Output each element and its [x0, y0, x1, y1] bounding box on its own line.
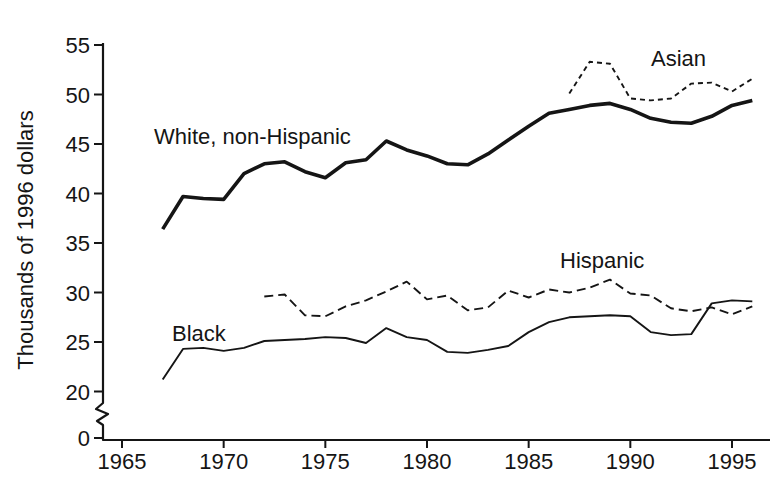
y-tick-label: 30	[66, 281, 90, 306]
series-line-black	[163, 300, 753, 379]
x-tick-label: 1995	[708, 449, 757, 474]
y-tick-label: 0	[78, 426, 90, 451]
x-tick-label: 1980	[403, 449, 452, 474]
x-tick-label: 1975	[301, 449, 350, 474]
series-line-white-non-hispanic	[163, 100, 753, 229]
series-label-asian: Asian	[651, 46, 706, 72]
income-line-chart-figure: 1965197019751980198519901995555045403530…	[0, 0, 783, 499]
series-label-black: Black	[172, 321, 226, 347]
series-label-hispanic: Hispanic	[560, 248, 644, 274]
y-tick-label: 50	[66, 83, 90, 108]
y-tick-label: 25	[66, 330, 90, 355]
y-tick-label: 40	[66, 182, 90, 207]
series-line-hispanic	[264, 280, 752, 317]
x-tick-label: 1965	[98, 449, 147, 474]
y-tick-label: 55	[66, 33, 90, 58]
y-axis-title: Thousands of 1996 dollars	[13, 110, 39, 369]
chart-plot-area: 1965197019751980198519901995555045403530…	[0, 0, 783, 499]
y-tick-label: 45	[66, 132, 90, 157]
x-tick-label: 1990	[606, 449, 655, 474]
y-tick-label: 20	[66, 380, 90, 405]
axis-lines	[96, 43, 770, 440]
x-tick-label: 1970	[199, 449, 248, 474]
x-tick-label: 1985	[504, 449, 553, 474]
series-label-white-non-hispanic: White, non-Hispanic	[154, 124, 351, 150]
y-tick-label: 35	[66, 231, 90, 256]
